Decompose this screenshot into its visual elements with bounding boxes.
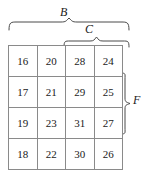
- grid-cell: 23: [37, 108, 66, 139]
- figure-canvas: B C F 16 20 28 24 17 21 29 25: [0, 0, 146, 172]
- grid-cell: 16: [9, 46, 38, 77]
- grid-cell: 26: [94, 139, 123, 170]
- grid-cell: 28: [66, 46, 95, 77]
- table-row: 17 21 29 25: [9, 77, 123, 108]
- brace-b-label: B: [60, 6, 67, 18]
- grid-cell: 22: [37, 139, 66, 170]
- brace-b: [8, 17, 130, 35]
- brace-f-label: F: [133, 94, 140, 106]
- grid-cell: 25: [94, 77, 123, 108]
- number-grid: 16 20 28 24 17 21 29 25 19 23 31 27 18 2…: [8, 45, 123, 170]
- grid-cell: 30: [66, 139, 95, 170]
- grid-cell: 27: [94, 108, 123, 139]
- grid-cell: 20: [37, 46, 66, 77]
- grid-cell: 19: [9, 108, 38, 139]
- grid-cell: 24: [94, 46, 123, 77]
- grid-cell: 18: [9, 139, 38, 170]
- grid-cell: 29: [66, 77, 95, 108]
- table-row: 18 22 30 26: [9, 139, 123, 170]
- table-row: 19 23 31 27: [9, 108, 123, 139]
- brace-c-label: C: [85, 23, 93, 35]
- grid-cell: 17: [9, 77, 38, 108]
- grid-cell: 31: [66, 108, 95, 139]
- brace-b-icon: [8, 17, 130, 31]
- table-row: 16 20 28 24: [9, 46, 123, 77]
- grid-cell: 21: [37, 77, 66, 108]
